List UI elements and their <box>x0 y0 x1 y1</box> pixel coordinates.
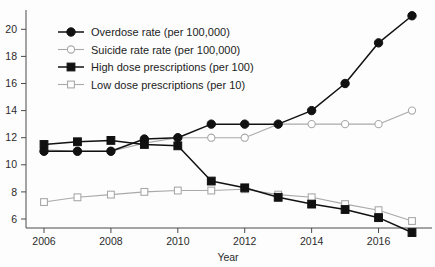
data-point <box>408 107 415 114</box>
legend-item[interactable]: Suicide rate rate (per 100,000) <box>58 44 240 56</box>
y-tick-label: 18 <box>5 50 17 62</box>
data-point <box>307 106 315 114</box>
data-point <box>374 39 382 47</box>
y-tick-label: 10 <box>5 158 17 170</box>
legend-item[interactable]: Low dose prescriptions (per 10) <box>58 79 245 91</box>
data-point <box>41 199 48 206</box>
chart-container: 68101214161820200620082010201220142016Ye… <box>0 0 435 267</box>
data-point <box>341 121 348 128</box>
data-point <box>73 147 81 155</box>
data-point <box>174 142 182 150</box>
legend-item[interactable]: Overdose rate (per 100,000) <box>58 26 230 38</box>
data-point <box>375 207 382 214</box>
data-point <box>274 120 282 128</box>
data-point <box>74 138 82 146</box>
y-tick-label: 6 <box>11 213 17 225</box>
data-point <box>241 120 249 128</box>
x-tick-label: 2014 <box>300 235 324 247</box>
data-point <box>408 12 416 20</box>
data-point <box>140 141 148 149</box>
data-point <box>74 194 81 201</box>
data-point <box>174 134 182 142</box>
series-line <box>44 140 412 232</box>
x-axis: 200620082010201220142016 <box>32 228 390 247</box>
data-point <box>107 147 115 155</box>
legend-label: High dose prescriptions (per 100) <box>91 61 254 73</box>
legend-marker <box>68 81 75 88</box>
data-point <box>208 187 215 194</box>
data-point <box>308 200 316 208</box>
data-point <box>207 177 215 185</box>
x-axis-title: Year <box>217 251 239 263</box>
data-point <box>274 193 282 201</box>
data-point <box>107 137 115 145</box>
line-chart: 68101214161820200620082010201220142016Ye… <box>0 0 435 267</box>
data-point <box>375 121 382 128</box>
data-point <box>241 184 249 192</box>
data-point <box>241 134 248 141</box>
data-point <box>207 120 215 128</box>
data-point <box>208 134 215 141</box>
x-tick-label: 2010 <box>166 235 190 247</box>
legend-label: Overdose rate (per 100,000) <box>91 26 230 38</box>
y-axis: 68101214161820 <box>5 23 26 225</box>
data-point <box>375 214 383 222</box>
y-tick-label: 14 <box>5 104 17 116</box>
series-line <box>44 189 412 221</box>
legend-marker <box>67 46 74 53</box>
x-tick-label: 2016 <box>367 235 391 247</box>
legend: Overdose rate (per 100,000)Suicide rate … <box>58 26 254 91</box>
data-point <box>174 187 181 194</box>
data-point <box>341 79 349 87</box>
data-point <box>40 141 48 149</box>
series-4 <box>41 186 416 225</box>
data-point <box>141 189 148 196</box>
x-tick-label: 2012 <box>233 235 257 247</box>
data-point <box>108 191 115 198</box>
series-line <box>44 111 412 152</box>
y-tick-label: 8 <box>11 186 17 198</box>
legend-marker <box>67 63 75 71</box>
y-tick-label: 16 <box>5 77 17 89</box>
legend-item[interactable]: High dose prescriptions (per 100) <box>58 61 254 73</box>
legend-marker <box>67 28 75 36</box>
series-2 <box>40 107 415 155</box>
data-point <box>408 229 416 237</box>
data-point <box>409 218 416 225</box>
y-tick-label: 12 <box>5 131 17 143</box>
x-tick-label: 2006 <box>32 235 56 247</box>
legend-label: Low dose prescriptions (per 10) <box>91 79 245 91</box>
data-point <box>341 206 349 214</box>
y-tick-label: 20 <box>5 23 17 35</box>
x-tick-label: 2008 <box>99 235 123 247</box>
legend-label: Suicide rate rate (per 100,000) <box>91 44 240 56</box>
data-point <box>308 121 315 128</box>
